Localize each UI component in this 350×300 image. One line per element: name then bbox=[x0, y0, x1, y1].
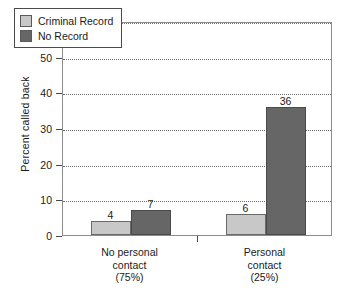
legend-label-criminal-record: Criminal Record bbox=[38, 15, 113, 27]
y-axis-label: 40 bbox=[24, 88, 52, 98]
gridline bbox=[63, 59, 331, 60]
y-axis-label: 20 bbox=[24, 160, 52, 170]
chart-legend: Criminal Record No Record bbox=[14, 8, 122, 48]
x-axis-group-label-line: Personal bbox=[205, 246, 325, 259]
x-axis-group-label-line: (75%) bbox=[70, 271, 190, 284]
y-axis-label: 10 bbox=[24, 195, 52, 205]
y-axis-tick bbox=[56, 236, 62, 237]
x-axis-group-label-line: No personal bbox=[70, 246, 190, 259]
y-axis-label: 0 bbox=[24, 231, 52, 241]
legend-swatch-no-record-icon bbox=[20, 30, 32, 42]
bar bbox=[91, 221, 131, 235]
bar-value-label: 7 bbox=[131, 199, 171, 210]
bar bbox=[131, 210, 171, 235]
bar-value-label: 4 bbox=[91, 210, 131, 221]
y-axis-label: 50 bbox=[24, 53, 52, 63]
legend-label-no-record: No Record bbox=[38, 30, 88, 42]
legend-swatch-criminal-record-icon bbox=[20, 15, 32, 27]
legend-item-criminal-record: Criminal Record bbox=[20, 13, 113, 28]
bar bbox=[266, 107, 306, 235]
legend-item-no-record: No Record bbox=[20, 28, 113, 43]
x-axis-group-label-line: contact bbox=[205, 259, 325, 272]
bar-value-label: 36 bbox=[266, 96, 306, 107]
x-axis-tick bbox=[197, 236, 198, 242]
x-axis-group-label: Personalcontact(25%) bbox=[205, 246, 325, 284]
plot-area: 47636 bbox=[62, 22, 332, 236]
x-axis-group-label-line: contact bbox=[70, 259, 190, 272]
y-axis-label: 30 bbox=[24, 124, 52, 134]
x-axis-group-label: No personalcontact(75%) bbox=[70, 246, 190, 284]
x-axis-group-label-line: (25%) bbox=[205, 271, 325, 284]
bar-value-label: 6 bbox=[226, 203, 266, 214]
bar bbox=[226, 214, 266, 235]
bar-chart: Percent called back 0102030405060 47636 … bbox=[0, 0, 350, 300]
